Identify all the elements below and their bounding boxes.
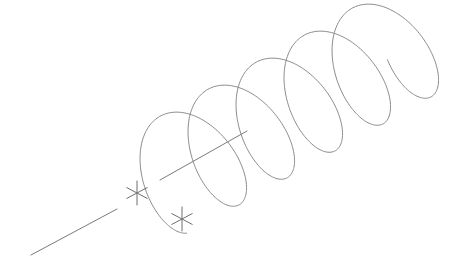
axis-segment-1[interactable] xyxy=(31,209,117,255)
helix-curve[interactable] xyxy=(140,4,438,233)
helix-axis-line[interactable] xyxy=(31,131,247,255)
helix-drawing[interactable] xyxy=(0,0,456,259)
drawing-viewport[interactable] xyxy=(0,0,456,259)
axis-segment-2[interactable] xyxy=(160,131,247,180)
grip-markers[interactable] xyxy=(127,181,192,231)
helix-base-point-marker-icon[interactable] xyxy=(172,207,192,231)
